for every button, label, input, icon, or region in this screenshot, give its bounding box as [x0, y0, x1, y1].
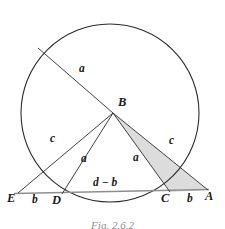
segment-label-cb: b: [187, 193, 193, 205]
point-label-b: B: [118, 96, 126, 109]
point-label-e: E: [7, 192, 15, 205]
point-label-a: A: [205, 190, 213, 203]
point-label-c: C: [161, 192, 169, 205]
segment-label-left-interior-a: a: [81, 153, 87, 165]
segment-label-right-c: c: [169, 135, 174, 147]
figure-caption: Fig. 2.6.2: [0, 219, 225, 229]
baseline-ea: [14, 190, 209, 194]
geometry-figure: E D C A B a c c a a b b d − b Fig. 2.6.2: [0, 0, 225, 229]
segment-label-eb: b: [32, 194, 38, 206]
segment-label-left-c: c: [50, 133, 55, 145]
segment-label-right-interior-a: a: [133, 152, 139, 164]
segment-label-chord-upper-a: a: [79, 63, 85, 75]
segment-label-d-minus-b: d − b: [93, 177, 117, 189]
point-label-d: D: [52, 194, 61, 207]
chord-upper-a: [38, 48, 113, 113]
